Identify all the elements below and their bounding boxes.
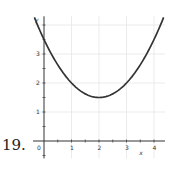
parabola-chart: 01234123xy: [0, 0, 175, 171]
y-tick-label: 3: [36, 50, 40, 57]
x-tick-label: 0: [37, 144, 41, 151]
x-tick-label: 3: [125, 144, 129, 151]
x-tick-label: 4: [153, 144, 157, 151]
x-tick-label: 2: [98, 144, 102, 151]
x-axis-label: x: [138, 149, 143, 156]
y-tick-label: 2: [36, 79, 40, 86]
x-tick-label: 1: [70, 144, 74, 151]
y-tick-label: 1: [36, 108, 40, 115]
